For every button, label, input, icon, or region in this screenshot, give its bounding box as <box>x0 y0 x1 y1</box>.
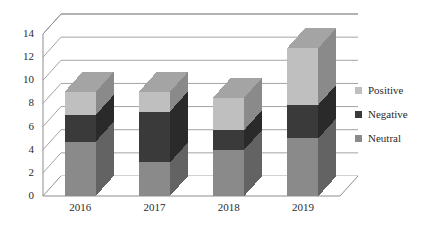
y-axis-label-14: 14 <box>8 28 34 39</box>
legend-swatch-icon-neutral <box>355 135 362 142</box>
legend-label-negative: Negative <box>368 109 408 120</box>
x-axis-label-2019: 2019 <box>266 202 340 213</box>
bar-2017 <box>139 72 188 196</box>
x-axis-label-2016: 2016 <box>43 202 117 213</box>
y-axis-label-6: 6 <box>8 121 34 132</box>
y-axis-label-2: 2 <box>8 167 34 178</box>
y-axis-label-10: 10 <box>8 74 34 85</box>
x-axis-label-2018: 2018 <box>192 202 266 213</box>
x-axis-label-2017: 2017 <box>117 202 191 213</box>
legend-item-negative[interactable]: Negative <box>355 102 408 126</box>
y-axis-label-0: 0 <box>8 190 34 201</box>
bar-2019 <box>287 28 336 196</box>
legend-item-positive[interactable]: Positive <box>355 78 408 102</box>
stacked-column-chart: 02468101214 2016201720182019 PositiveNeg… <box>0 0 425 225</box>
y-axis-label-8: 8 <box>8 97 34 108</box>
legend-swatch-icon-negative <box>355 111 362 118</box>
y-axis-label-12: 12 <box>8 51 34 62</box>
legend-label-positive: Positive <box>368 85 403 96</box>
bar-2016 <box>65 72 114 196</box>
chart-legend: PositiveNegativeNeutral <box>355 78 408 150</box>
legend-swatch-icon-positive <box>355 87 362 94</box>
bar-2018 <box>213 78 262 196</box>
y-axis-label-4: 4 <box>8 144 34 155</box>
legend-label-neutral: Neutral <box>368 133 401 144</box>
legend-item-neutral[interactable]: Neutral <box>355 126 408 150</box>
